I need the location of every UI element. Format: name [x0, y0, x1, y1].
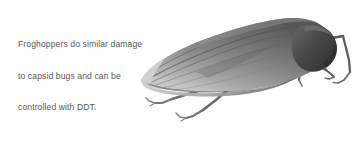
froghopper-illustration	[0, 0, 358, 141]
figure-container: Froghoppers do similar damage to capsid …	[0, 0, 358, 141]
froghopper-body	[141, 18, 337, 97]
head	[292, 24, 337, 71]
